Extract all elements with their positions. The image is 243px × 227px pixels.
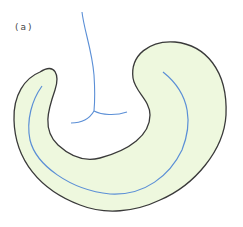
branching-line-left [71,111,94,123]
outer-region [14,42,226,211]
branching-line-trunk [82,12,95,111]
branching-line-right [94,111,127,115]
diagram-svg [0,0,243,227]
panel-label: (a) [15,22,34,32]
diagram-canvas: (a) [0,0,243,227]
